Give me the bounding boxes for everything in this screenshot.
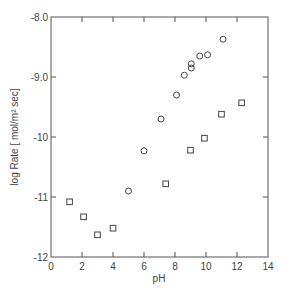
square-marker [81, 214, 87, 220]
circle-marker [181, 72, 187, 78]
circle-marker [126, 188, 132, 194]
circle-marker [197, 53, 203, 59]
circle-marker [174, 92, 180, 98]
y-tick-label: -12 [34, 252, 49, 263]
circle-marker [141, 148, 147, 154]
circle-marker [220, 36, 226, 42]
square-marker [110, 225, 116, 231]
x-tick-label: 14 [262, 261, 274, 272]
y-axis-label: log Rate [ mol/m² sec] [9, 88, 20, 185]
square-marker [219, 111, 225, 117]
circle-marker [205, 52, 211, 58]
x-tick-label: 8 [172, 261, 178, 272]
scatter-chart: 02468101214 -12-11-10-9.0-8.0 pH log Rat… [0, 0, 285, 292]
y-tick-label: -11 [34, 192, 48, 203]
y-tick-label: -9.0 [31, 72, 49, 83]
circle-marker [158, 116, 164, 122]
x-axis-ticks: 02468101214 [48, 17, 274, 272]
x-axis-label: pH [153, 273, 166, 284]
plot-border [51, 17, 268, 257]
x-tick-label: 0 [48, 261, 54, 272]
y-axis-ticks: -12-11-10-9.0-8.0 [31, 12, 268, 263]
x-tick-label: 4 [110, 261, 116, 272]
x-tick-label: 12 [231, 261, 243, 272]
plot-frame [51, 17, 268, 257]
square-marker [239, 100, 245, 106]
y-tick-label: -10 [34, 132, 49, 143]
square-marker [163, 181, 169, 187]
square-marker [202, 135, 208, 141]
square-marker [188, 147, 194, 153]
y-tick-label: -8.0 [31, 12, 49, 23]
x-tick-label: 6 [141, 261, 147, 272]
data-markers [67, 36, 245, 237]
circle-marker [188, 61, 194, 67]
square-marker [95, 232, 101, 238]
square-marker [67, 199, 73, 205]
x-tick-label: 10 [200, 261, 212, 272]
x-tick-label: 2 [79, 261, 85, 272]
